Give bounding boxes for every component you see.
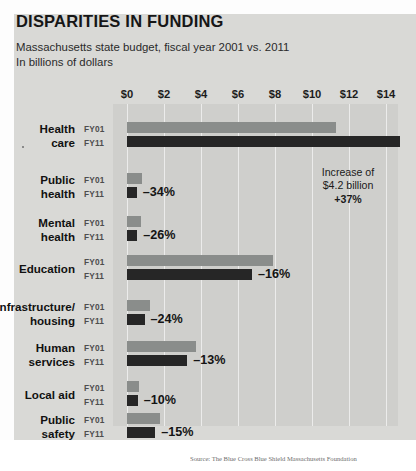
change-percent-label: –26% [143,228,175,242]
bar-fy11 [127,269,252,280]
category-label-line-2: care [0,136,75,150]
annotation-line-2: $4.2 billion [300,179,396,192]
change-percent-label: –13% [193,353,225,367]
change-percent-label: –10% [144,393,176,407]
category-label: Infrastructure/housing [0,300,75,327]
x-axis-tick-0: $0 [121,88,133,100]
chart-title: DISPARITIES IN FUNDING [16,12,224,31]
series-label-fy11: FY11 [84,232,110,242]
annotation-line-3: +37% [300,193,396,206]
category-label-line-1: Local aid [0,388,75,402]
bar-fy11 [127,314,145,325]
category-label: Publichealth [0,173,75,200]
x-axis-tick-2: $2 [158,88,170,100]
change-percent-label: –34% [143,185,175,199]
x-axis-tick-6: $6 [232,88,244,100]
bar-fy11 [127,355,187,366]
category-label-line-1: Mental [0,216,75,230]
bar-fy01 [127,216,141,227]
bar-fy01 [127,300,150,311]
category-label: Education [0,262,75,276]
chart-subtitle-line-2: In billions of dollars [16,55,376,70]
chart-row: EducationFY01FY11–16% [0,255,416,285]
bar-fy01 [127,381,139,392]
series-label-fy11: FY11 [84,138,110,148]
chart-subtitle: Massachusetts state budget, fiscal year … [16,40,376,69]
bar-fy11 [127,136,400,147]
category-label-line-2: health [0,187,75,201]
series-label-fy11: FY11 [84,189,110,199]
category-label-line-2: safety [0,427,75,441]
category-label: Local aid [0,388,75,402]
change-percent-label: –24% [151,312,183,326]
funding-chart-figure: DISPARITIES IN FUNDING Massachusetts sta… [0,0,416,471]
category-label: Humanservices [0,341,75,368]
x-axis-tick-12: $12 [340,88,359,100]
category-label-line-1: Education [0,262,75,276]
bar-fy01 [127,413,160,424]
bar-fy11 [127,427,155,438]
source-credit: Source: The Blue Cross Blue Shield Massa… [190,455,416,462]
health-care-increase-annotation: Increase of $4.2 billion +37% [300,166,396,206]
chart-row: MentalhealthFY01FY11–26% [0,216,416,246]
chart-row: PublicsafetyFY01FY11–15% [0,413,416,443]
bar-fy11 [127,395,138,406]
category-label-line-1: Human [0,341,75,355]
x-axis-tick-4: $4 [195,88,207,100]
series-label-fy01: FY01 [84,383,110,393]
series-label-fy11: FY11 [84,357,110,367]
x-axis-tick-8: $8 [269,88,281,100]
chart-row: HumanservicesFY01FY11–13% [0,341,416,371]
category-label: Publicsafety [0,413,75,440]
chart-subtitle-line-1: Massachusetts state budget, fiscal year … [16,40,376,55]
bar-fy01 [127,173,142,184]
bar-fy11 [127,230,137,241]
series-label-fy11: FY11 [84,316,110,326]
series-label-fy01: FY01 [84,124,110,134]
category-label-line-2: services [0,355,75,369]
change-percent-label: –15% [161,425,193,439]
chart-row: Infrastructure/housingFY01FY11–24% [0,300,416,330]
series-label-fy11: FY11 [84,429,110,439]
category-label-line-1: Infrastructure/ [0,300,75,314]
category-label-line-2: housing [0,314,75,328]
chart-row: Local aidFY01FY11–10% [0,381,416,411]
series-label-fy01: FY01 [84,175,110,185]
category-label: Mentalhealth [0,216,75,243]
bar-fy01 [127,122,336,133]
bar-fy01 [127,341,196,352]
x-axis-tick-10: $10 [303,88,322,100]
category-label-line-1: Health [0,122,75,136]
chart-row: HealthcareFY01FY11 [0,122,416,152]
x-axis-tick-14: $14 [377,88,396,100]
series-label-fy01: FY01 [84,415,110,425]
bar-fy11 [127,187,137,198]
series-label-fy01: FY01 [84,302,110,312]
bar-fy01 [127,255,273,266]
series-label-fy01: FY01 [84,257,110,267]
category-label-line-1: Public [0,173,75,187]
annotation-line-1: Increase of [300,166,396,179]
series-label-fy11: FY11 [84,271,110,281]
category-label: Healthcare [0,122,75,149]
category-label-line-2: health [0,230,75,244]
x-axis-tick-labels: $0$2$4$6$8$10$12$14 [0,88,416,104]
series-label-fy01: FY01 [84,343,110,353]
series-label-fy11: FY11 [84,397,110,407]
change-percent-label: –16% [258,267,290,281]
series-label-fy01: FY01 [84,218,110,228]
category-label-line-1: Public [0,413,75,427]
